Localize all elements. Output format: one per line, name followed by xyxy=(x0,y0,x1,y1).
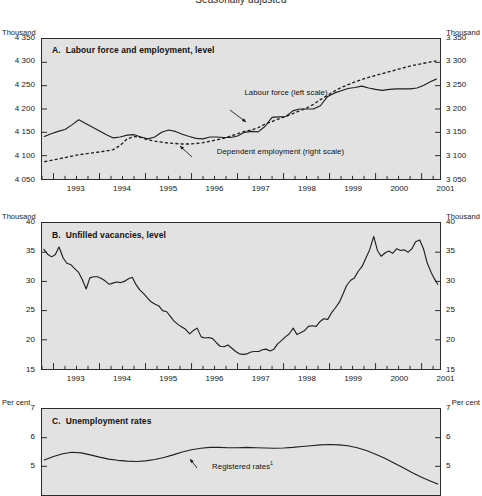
ytick-label: 35 xyxy=(1,247,35,255)
ytick-label: 4 100 xyxy=(1,152,35,160)
ytick-label: 5 xyxy=(1,462,35,470)
ytick-label: 6 xyxy=(1,433,35,441)
panel-a-plot-area xyxy=(41,38,441,180)
ytick-label: 3 350 xyxy=(446,34,480,42)
ytick-label: 3 100 xyxy=(446,152,480,160)
ytick-label: 4 050 xyxy=(1,176,35,184)
ytick-label: 4 350 xyxy=(1,34,35,42)
panel-b: Thousand Thousand B. Unfilled vacancies,… xyxy=(0,208,482,398)
ytick-label: 15 xyxy=(1,366,35,374)
ytick-label: 40 xyxy=(1,218,35,226)
panel-a: Thousand Thousand A. Labour force and em… xyxy=(0,0,482,208)
ytick-label: 15 xyxy=(446,366,480,374)
panel-c-letter: C. xyxy=(52,416,61,426)
panel-b-letter: B. xyxy=(52,230,61,240)
ytick-label: 7 xyxy=(446,404,480,412)
series-annotation: Dependent employment (right scale) xyxy=(217,147,344,156)
ytick-label: 3 050 xyxy=(446,176,480,184)
ytick-label: 25 xyxy=(446,306,480,314)
xtick-label: 1999 xyxy=(333,374,373,383)
ytick-label: 3 200 xyxy=(446,105,480,113)
ytick-label: 20 xyxy=(1,336,35,344)
ytick-label: 6 xyxy=(446,433,480,441)
xtick-label: 1993 xyxy=(56,184,96,193)
ytick-label: 4 150 xyxy=(1,128,35,136)
xtick-label: 1995 xyxy=(148,184,188,193)
xtick-label: 2001 xyxy=(426,184,466,193)
panel-a-letter: A. xyxy=(52,45,61,55)
ytick-label: 4 200 xyxy=(1,105,35,113)
ytick-label: 5 xyxy=(446,462,480,470)
ytick-label: 4 250 xyxy=(1,81,35,89)
figure-root: Seasonally adjusted Thousand Thousand A.… xyxy=(0,0,482,496)
series-annotation: Registered rates1 xyxy=(212,460,273,471)
xtick-label: 1996 xyxy=(194,374,234,383)
xtick-label: 1994 xyxy=(102,184,142,193)
ytick-label: 3 150 xyxy=(446,128,480,136)
ytick-label: 40 xyxy=(446,218,480,226)
ytick-label: 3 300 xyxy=(446,57,480,65)
xtick-label: 1993 xyxy=(56,374,96,383)
panel-c-title: Unemployment rates xyxy=(66,416,152,426)
panel-b-label: B. Unfilled vacancies, level xyxy=(52,230,166,240)
panel-b-title: Unfilled vacancies, level xyxy=(66,230,166,240)
panel-a-svg xyxy=(42,39,440,179)
panel-a-label: A. Labour force and employment, level xyxy=(52,45,215,55)
xtick-label: 2001 xyxy=(426,374,466,383)
xtick-label: 1996 xyxy=(194,184,234,193)
ytick-label: 35 xyxy=(446,247,480,255)
ytick-label: 30 xyxy=(446,277,480,285)
panel-b-svg xyxy=(42,223,440,369)
ytick-label: 30 xyxy=(1,277,35,285)
panel-a-title: Labour force and employment, level xyxy=(66,45,215,55)
xtick-label: 1994 xyxy=(102,374,142,383)
ytick-label: 4 300 xyxy=(1,57,35,65)
xtick-label: 1999 xyxy=(333,184,373,193)
ytick-label: 7 xyxy=(1,404,35,412)
xtick-label: 2000 xyxy=(379,374,419,383)
series-annotation: Labour force (left scale) xyxy=(244,88,327,97)
xtick-label: 1998 xyxy=(287,184,327,193)
ytick-label: 3 250 xyxy=(446,81,480,89)
ytick-label: 25 xyxy=(1,306,35,314)
xtick-label: 1998 xyxy=(287,374,327,383)
panel-c-label: C. Unemployment rates xyxy=(52,416,152,426)
panel-c: Per cent Per cent C. Unemployment rates … xyxy=(0,398,482,496)
xtick-label: 1997 xyxy=(241,184,281,193)
panel-b-plot-area xyxy=(41,222,441,370)
xtick-label: 1997 xyxy=(241,374,281,383)
ytick-label: 20 xyxy=(446,336,480,344)
xtick-label: 1995 xyxy=(148,374,188,383)
xtick-label: 2000 xyxy=(379,184,419,193)
